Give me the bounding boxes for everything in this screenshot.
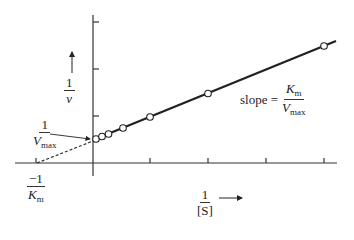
y-ticks bbox=[93, 22, 99, 116]
km-annotation: −1 Km bbox=[27, 172, 45, 204]
vmax-annotation: 1 Vmax bbox=[33, 118, 56, 150]
x-axis-label: 1 [S] bbox=[197, 188, 213, 217]
y-axis-label: 1 v bbox=[64, 76, 75, 105]
x-ticks bbox=[36, 158, 324, 163]
slope-annotation: slope = Km Vmax bbox=[240, 82, 305, 117]
